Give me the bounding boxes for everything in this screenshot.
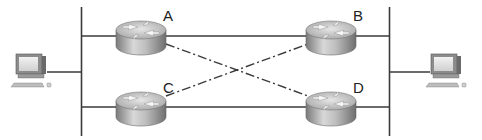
router-label-b: B [353,8,363,23]
router-label-d: D [353,80,364,95]
router-label-a: A [163,8,173,23]
network-diagram: A B C D [0,0,482,140]
router-c-icon [116,92,166,126]
workstation-right-icon [426,54,466,87]
router-d-icon [306,92,356,126]
router-a-icon [116,21,166,55]
router-b-icon [306,21,356,55]
workstation-left-icon [11,54,51,87]
router-label-c: C [163,80,174,95]
